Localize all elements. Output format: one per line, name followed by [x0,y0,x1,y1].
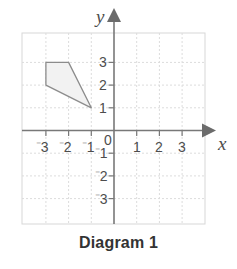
x-tick-label-1: 1 [133,140,141,154]
y-tick-label-3: 3 [99,55,107,69]
y-tick-label-1: 1 [99,101,107,115]
coordinate-plane: ⁻3 ⁻2 ⁻1 1 2 3 0 3 2 1 ⁻1 ⁻2 ⁻3 y x [0,0,237,232]
x-tick-label-2: 2 [155,140,163,154]
x-axis-name: x [218,134,226,153]
x-tick-label--1: ⁻1 [82,140,94,154]
coordinate-grid-svg [0,0,237,232]
x-tick-label--3: ⁻3 [36,140,48,154]
y-tick-label--2: ⁻2 [95,169,107,183]
diagram-caption: Diagram 1 [0,234,237,252]
y-axis-name: y [96,7,104,26]
y-tick-label--3: ⁻3 [95,192,107,206]
diagram-figure: ⁻3 ⁻2 ⁻1 1 2 3 0 3 2 1 ⁻1 ⁻2 ⁻3 y x Diag… [0,0,237,269]
x-tick-label--2: ⁻2 [59,140,71,154]
x-tick-label-3: 3 [178,140,186,154]
y-tick-label-2: 2 [99,78,107,92]
y-tick-label--1: ⁻1 [95,146,107,160]
